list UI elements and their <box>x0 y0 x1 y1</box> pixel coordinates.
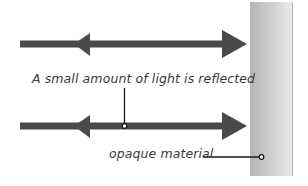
upper-arrow-right-head-icon <box>222 30 247 58</box>
material-leader-dot-icon <box>259 155 264 160</box>
reflection-leader-dot-icon <box>122 124 127 129</box>
material-label: opaque material <box>109 146 213 161</box>
light-reflection-diagram: A small amount of light is reflected opa… <box>0 0 308 186</box>
lower-double-arrow <box>20 112 247 140</box>
lower-arrow-right-head-icon <box>222 112 247 140</box>
reflection-leader <box>122 88 127 128</box>
upper-arrow-shaft <box>20 41 225 48</box>
upper-double-arrow <box>20 30 247 58</box>
upper-arrow-left-head-icon <box>74 33 90 56</box>
reflection-label: A small amount of light is reflected <box>32 71 255 86</box>
lower-arrow-left-head-icon <box>74 115 90 138</box>
